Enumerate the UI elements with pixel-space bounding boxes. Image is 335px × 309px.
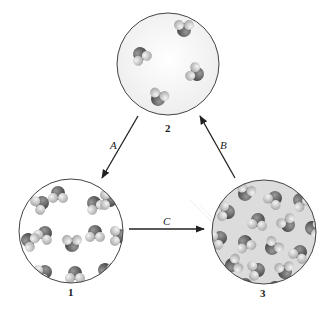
state-3-label: 3 bbox=[260, 287, 266, 299]
phase-diagram: A B C 2 1 3 bbox=[0, 0, 335, 309]
state-1-solid bbox=[6, 179, 127, 286]
arrow-a bbox=[102, 116, 138, 178]
state-1-label: 1 bbox=[68, 286, 74, 298]
state-2-gas bbox=[117, 13, 219, 115]
arrow-a-label: A bbox=[109, 139, 117, 151]
arrow-b bbox=[200, 116, 235, 178]
state-2-label: 2 bbox=[165, 122, 171, 134]
arrow-b-label: B bbox=[220, 139, 227, 151]
arrow-c-label: C bbox=[163, 215, 171, 227]
state-3-liquid bbox=[206, 180, 323, 302]
